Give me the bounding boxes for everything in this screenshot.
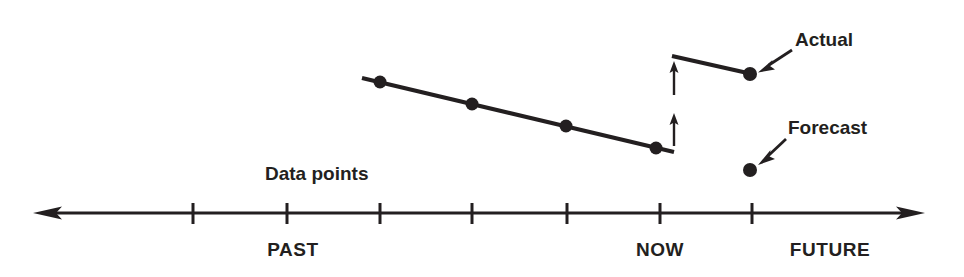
data-point-marker (374, 76, 387, 89)
forecast-point-marker (743, 163, 757, 177)
data-point-marker (560, 120, 573, 133)
annotation-label-data-points: Data points (265, 163, 368, 184)
data-points-line (362, 78, 674, 152)
annotation-data-points: Data points (265, 163, 368, 184)
forecast-timeline-figure: PAST NOW FUTURE (0, 0, 964, 277)
chart-canvas: PAST NOW FUTURE (0, 0, 964, 277)
series-forecast (743, 163, 757, 177)
actual-line (672, 56, 752, 74)
data-point-marker (466, 98, 479, 111)
actual-point-marker (743, 67, 757, 81)
annotation-actual: Actual (758, 29, 853, 73)
series-data-points (362, 76, 674, 155)
gap-arrow-up-icon (670, 113, 679, 146)
annotation-forecast: Forecast (758, 117, 868, 165)
annotation-label-forecast: Forecast (788, 117, 868, 138)
gap-arrows (670, 61, 679, 146)
axis-label-past: PAST (267, 239, 319, 260)
annotation-label-actual: Actual (795, 29, 853, 50)
time-axis: PAST NOW FUTURE (33, 203, 925, 260)
axis-label-now: NOW (636, 239, 684, 260)
annotation-arrow-actual-icon (758, 50, 792, 73)
axis-label-future: FUTURE (790, 239, 871, 260)
data-point-marker (650, 142, 663, 155)
annotation-arrow-forecast-icon (758, 139, 786, 165)
gap-arrow-up-icon (670, 61, 679, 95)
series-actual (672, 56, 757, 81)
